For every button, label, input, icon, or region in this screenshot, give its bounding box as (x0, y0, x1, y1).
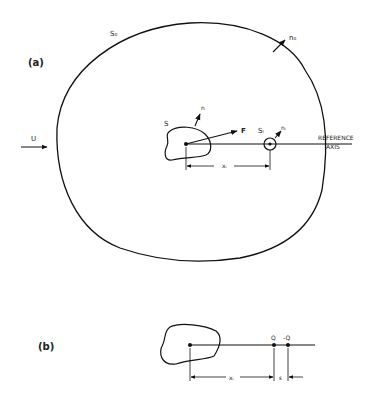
panel-a: (a) S₀ n₀ U S n REFERENCE AXIS F Sᵢ nᵢ (21, 23, 354, 261)
reference-axis-label-1: REFERENCE (318, 134, 354, 141)
diagram-canvas: (a) S₀ n₀ U S n REFERENCE AXIS F Sᵢ nᵢ (0, 0, 375, 396)
distance-label: xᵢ (222, 162, 227, 169)
force-arrow (186, 131, 237, 144)
freestream-label: U (31, 135, 36, 143)
body-normal-arrow (195, 114, 200, 126)
panel-b: (b) Q -Q xᵢ ε (38, 324, 315, 381)
small-surface-label: Sᵢ (258, 127, 264, 135)
origin-point-b (188, 343, 192, 347)
panel-a-label: (a) (28, 57, 44, 68)
outer-normal-label: n₀ (289, 34, 296, 42)
body-surface-label: S (164, 120, 169, 128)
outer-surface-label: S₀ (110, 30, 117, 38)
separation-label: ε (279, 374, 282, 381)
body-normal-label: n (201, 104, 205, 111)
source-label: Q (271, 334, 276, 341)
sink-point (286, 343, 290, 347)
small-surface-center (268, 142, 271, 145)
reference-axis-label-2: AXIS (326, 143, 340, 150)
force-label: F (241, 127, 246, 135)
outer-surface-s0 (57, 23, 326, 261)
small-normal-label: nᵢ (281, 124, 286, 131)
distance-label-b: xᵢ (229, 374, 234, 381)
panel-b-label: (b) (38, 341, 54, 352)
source-point (272, 343, 276, 347)
sink-label: -Q (283, 334, 290, 341)
small-normal-arrow (275, 131, 281, 138)
